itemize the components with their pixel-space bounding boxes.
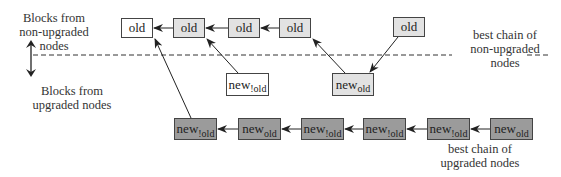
connector-layer [0,0,561,177]
arrow-new-not-old-to-old-2 [207,39,238,73]
arrow-new-old-to-old-4 [313,39,345,73]
arrow-upgraded-1-to-old-1 [155,39,191,118]
blockchain-fork-diagram: Blocks from non-upgraded nodes Blocks fr… [0,0,561,177]
double-arrow-icon [26,40,36,77]
